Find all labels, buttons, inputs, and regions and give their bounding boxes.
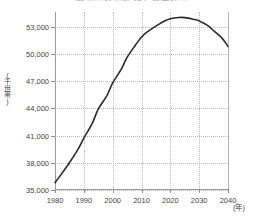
y-tick-label: 53,000 — [3, 22, 49, 31]
y-tick-label: 50,000 — [3, 49, 49, 58]
x-tick-label: 2020 — [162, 196, 179, 205]
y-tick-label: 35,000 — [3, 186, 49, 195]
gridline-vertical — [228, 12, 229, 190]
chart-container: 一般世帯数の推移と将来推計 (千世帯) (年) 35,00038,00041,0… — [0, 0, 256, 221]
x-tick-label: 2000 — [104, 196, 121, 205]
plot-area — [55, 12, 228, 190]
x-tick-label: 2030 — [191, 196, 208, 205]
data-series-line — [55, 12, 228, 190]
x-tick-label: 2040 — [220, 196, 237, 205]
y-tick-label: 38,000 — [3, 158, 49, 167]
y-tick-label: 47,000 — [3, 77, 49, 86]
x-axis-tick — [228, 189, 229, 193]
y-tick-label: 41,000 — [3, 131, 49, 140]
y-tick-label: 44,000 — [3, 104, 49, 113]
x-tick-label: 1990 — [75, 196, 92, 205]
x-tick-label: 2010 — [133, 196, 150, 205]
chart-title: 一般世帯数の推移と将来推計 — [0, 0, 256, 1]
x-tick-label: 1980 — [47, 196, 64, 205]
